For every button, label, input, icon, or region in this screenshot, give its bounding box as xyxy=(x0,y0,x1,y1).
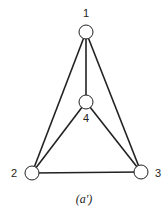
edge-1-3 xyxy=(86,32,141,172)
caption: (a′) xyxy=(76,192,93,206)
graph-canvas: 1423 (a′) xyxy=(0,0,168,215)
node-label-4: 4 xyxy=(83,112,89,124)
node-label-2: 2 xyxy=(11,167,17,179)
node-2 xyxy=(25,166,39,180)
node-label-1: 1 xyxy=(83,7,89,19)
edge-2-3 xyxy=(32,172,141,173)
node-4 xyxy=(79,95,93,109)
node-label-3: 3 xyxy=(155,167,161,179)
edge-4-2 xyxy=(32,102,86,173)
edge-1-2 xyxy=(32,32,86,173)
node-1 xyxy=(79,25,93,39)
graph-diagram: 1423 (a′) xyxy=(0,0,168,215)
edge-4-3 xyxy=(86,102,141,172)
node-3 xyxy=(134,165,148,179)
